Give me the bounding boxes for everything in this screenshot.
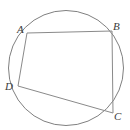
circumscribed-circle (9, 11, 124, 126)
segment-ab (27, 31, 112, 33)
vertex-label-a: A (17, 24, 24, 35)
segment-bc (112, 31, 113, 113)
vertex-label-d: D (5, 81, 13, 92)
segment-da (18, 33, 27, 86)
geometry-figure: A B C D (0, 0, 130, 130)
figure-canvas (0, 0, 130, 130)
vertex-label-b: B (113, 21, 120, 32)
segment-cd (18, 86, 113, 113)
vertex-label-c: C (114, 111, 121, 122)
